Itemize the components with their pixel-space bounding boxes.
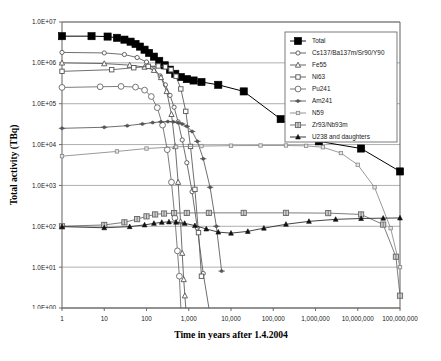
plus-dot-core: [185, 125, 188, 128]
x-tick-label: 1,000: [181, 315, 197, 322]
marker-open-square: [174, 74, 178, 78]
marker-filled-square: [113, 34, 120, 41]
x-axis-title: Time in years after 1.4.2004: [174, 329, 288, 340]
marker-filled-square: [240, 88, 247, 95]
series-pu241: [59, 84, 182, 308]
legend-item-label: Fe55: [312, 61, 327, 68]
plus-dot-core: [159, 120, 162, 123]
marker-crossed-square: [153, 212, 158, 217]
series-line: [62, 213, 400, 296]
marker-filled-square: [215, 81, 222, 88]
marker-plus-dot: [101, 126, 107, 129]
chart-canvas: 1.0E+001.0E+011.0E+021.0E+031.0E+041.0E+…: [0, 0, 441, 361]
marker-filled-square: [183, 76, 190, 83]
series-zr93-nb93m: [59, 210, 402, 298]
legend-item[interactable]: Zr93/Nb93m: [290, 121, 348, 128]
marker-crossed-square: [397, 293, 402, 298]
marker-crossed-square: [295, 122, 300, 127]
activity-decay-chart: 1.0E+001.0E+011.0E+021.0E+031.0E+041.0E+…: [0, 0, 441, 361]
y-axis-ticks: 1.0E+001.0E+011.0E+021.0E+031.0E+041.0E+…: [32, 18, 62, 311]
marker-open-square-tiny: [115, 150, 118, 153]
legend-item-label: Zr93/Nb93m: [312, 121, 348, 128]
legend-item-label: Total: [312, 37, 326, 44]
plus-dot-core: [166, 120, 169, 123]
marker-open-square: [146, 64, 150, 68]
x-tick-label: 10,000: [221, 315, 241, 322]
marker-crossed-square: [161, 211, 166, 216]
marker-open-square-tiny: [339, 151, 342, 154]
series-line: [62, 66, 201, 276]
legend-item-label: Am241: [312, 97, 333, 104]
series-fe55: [59, 60, 187, 308]
marker-crossed-square: [326, 211, 331, 216]
marker-plus-dot: [59, 127, 65, 130]
marker-plus-dot: [213, 225, 219, 228]
marker-open-square: [193, 187, 197, 191]
marker-crossed-square: [184, 210, 189, 215]
marker-open-circle: [142, 87, 148, 93]
marker-open-circle-small: [60, 50, 64, 54]
plus-dot-core: [220, 270, 223, 273]
marker-open-square-tiny: [304, 144, 307, 147]
y-tick-label: 1.0E+05: [32, 100, 56, 107]
y-axis-title: Total activity (TBq): [8, 125, 20, 206]
x-tick-label: 1,000,000: [301, 315, 330, 322]
marker-open-circle: [97, 84, 103, 90]
marker-open-triangle: [182, 293, 187, 298]
marker-filled-square: [198, 78, 205, 85]
marker-open-circle-small: [102, 51, 106, 55]
plus-dot-core: [141, 122, 144, 125]
marker-open-square: [296, 75, 300, 79]
plus-dot-core: [172, 120, 175, 123]
marker-open-square: [132, 66, 136, 70]
marker-open-square-tiny: [174, 145, 177, 148]
marker-crossed-square: [171, 211, 176, 216]
marker-open-square-tiny: [389, 226, 392, 229]
marker-open-square: [109, 68, 113, 72]
marker-open-circle: [154, 105, 160, 111]
x-tick-label: 100: [141, 315, 152, 322]
marker-open-circle: [59, 85, 65, 91]
marker-open-circle: [118, 84, 124, 90]
series-line: [62, 145, 400, 267]
legend-item-label: N59: [312, 109, 324, 116]
marker-plus-dot: [194, 140, 200, 143]
y-tick-label: 1.0E+04: [32, 141, 56, 148]
marker-open-circle: [295, 86, 301, 92]
marker-open-circle-small: [185, 161, 189, 165]
plus-dot-core: [196, 140, 199, 143]
marker-open-square-tiny: [373, 186, 376, 189]
plus-dot-core: [61, 127, 64, 130]
marker-open-circle: [176, 273, 182, 279]
marker-open-circle-small: [122, 52, 126, 56]
marker-open-circle-small: [172, 105, 176, 109]
marker-open-square: [199, 274, 203, 278]
legend-item-label: Ni63: [312, 73, 326, 80]
marker-filled-square: [88, 33, 95, 40]
marker-filled-square: [294, 37, 301, 44]
legend-item-label: Cs137/Ba137m/Sr90/Y90: [312, 49, 385, 56]
y-tick-label: 1.0E+02: [32, 223, 56, 230]
marker-open-square-tiny: [229, 144, 232, 147]
marker-open-square: [156, 64, 160, 68]
marker-open-circle-small: [135, 55, 139, 59]
marker-plus-dot: [139, 122, 145, 125]
series-line: [62, 122, 222, 272]
marker-filled-square: [190, 77, 197, 84]
marker-crossed-square: [206, 210, 211, 215]
x-tick-label: 10: [101, 315, 109, 322]
marker-open-triangle: [169, 112, 174, 117]
legend-item-label: Pu241: [312, 85, 331, 92]
marker-crossed-square: [122, 220, 127, 225]
marker-open-square-tiny: [398, 265, 401, 268]
legend-item-label: U238 and daughters: [312, 133, 370, 141]
series-u238-and-daughters: [60, 215, 403, 235]
marker-open-square: [163, 65, 167, 69]
marker-open-square-tiny: [259, 144, 262, 147]
marker-crossed-square: [135, 216, 140, 221]
plus-dot-core: [297, 100, 300, 103]
x-tick-label: 100,000,000: [382, 315, 418, 322]
marker-plus-dot: [200, 157, 206, 160]
marker-open-circle: [148, 94, 154, 100]
marker-open-square-tiny: [145, 147, 148, 150]
